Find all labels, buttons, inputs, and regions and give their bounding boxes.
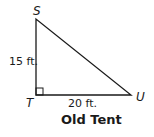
figure-title: Old Tent bbox=[61, 113, 122, 126]
vertex-label-s: S bbox=[33, 5, 41, 17]
side-length-tu: 20 ft. bbox=[68, 98, 97, 109]
vertex-label-u: U bbox=[136, 91, 145, 103]
vertex-label-t: T bbox=[26, 97, 33, 109]
right-angle-marker bbox=[36, 88, 43, 95]
side-length-st: 15 ft. bbox=[9, 56, 38, 67]
triangle-stu bbox=[36, 19, 131, 95]
